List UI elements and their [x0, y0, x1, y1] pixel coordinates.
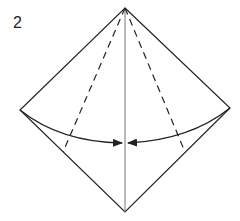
right-valley-fold-line	[125, 8, 185, 152]
left-valley-fold-line	[63, 8, 125, 152]
right-fold-arrow	[128, 108, 230, 143]
origami-diagram	[0, 0, 240, 221]
left-fold-arrow	[20, 110, 122, 143]
